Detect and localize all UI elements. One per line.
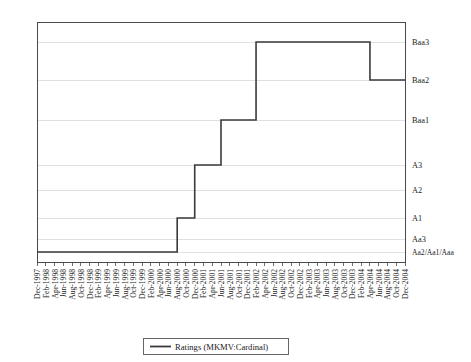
x-axis-labels-group: Dec-1997Feb-1998Apr-1998Jun-1998Aug-1998… [33,269,410,300]
x-label-Feb-2002: Feb-2002 [252,269,261,298]
x-label-Oct-2003: Oct-2003 [340,269,349,298]
x-label-Apr-1999: Apr-1999 [103,269,112,299]
x-label-Dec-2002: Dec-2002 [296,269,305,299]
y-label-Aa3: Aa3 [412,235,426,244]
x-label-Jun-2002: Jun-2002 [270,269,279,297]
x-label-Dec-1999: Dec-1999 [138,269,147,299]
x-label-Aug-2001: Aug-2001 [226,269,235,300]
x-label-Aug-2003: Aug-2003 [331,269,340,300]
x-label-Oct-1999: Oct-1999 [129,269,138,298]
y-label-Baa3: Baa3 [412,38,429,47]
x-label-Aug-2002: Aug-2002 [278,269,287,300]
x-label-Aug-1998: Aug-1998 [68,269,77,300]
chart-figure: Aa2/Aa1/AaaAa3A1A2A3Baa1Baa2Baa3 Dec-199… [0,0,471,362]
x-tickmarks-group [37,262,405,266]
x-label-Dec-2003: Dec-2003 [348,269,357,299]
x-label-Apr-2003: Apr-2003 [313,269,322,299]
x-label-Oct-2002: Oct-2002 [287,269,296,298]
x-label-Feb-2001: Feb-2001 [199,269,208,298]
x-label-Dec-1998: Dec-1998 [86,269,95,299]
x-label-Feb-2000: Feb-2000 [147,269,156,298]
y-label-A3: A3 [412,161,422,170]
x-label-Apr-2001: Apr-2001 [208,269,217,299]
y-label-A2: A2 [412,186,422,195]
x-label-Dec-2004: Dec-2004 [401,269,410,299]
x-label-Dec-2000: Dec-2000 [191,269,200,299]
x-label-Apr-2000: Apr-2000 [156,269,165,299]
x-label-Dec-2001: Dec-2001 [243,269,252,299]
x-label-Feb-1998: Feb-1998 [42,269,51,298]
x-label-Apr-2002: Apr-2002 [261,269,270,299]
x-label-Oct-2004: Oct-2004 [392,269,401,298]
y-axis-labels-group: Aa2/Aa1/AaaAa3A1A2A3Baa1Baa2Baa3 [412,38,454,257]
x-label-Dec-1997: Dec-1997 [33,269,42,299]
x-label-Jun-2001: Jun-2001 [217,269,226,297]
x-label-Oct-1998: Oct-1998 [77,269,86,298]
x-label-Aug-2004: Aug-2004 [383,269,392,300]
x-label-Jun-1998: Jun-1998 [59,269,68,297]
x-label-Oct-2000: Oct-2000 [182,269,191,298]
y-label-Baa2: Baa2 [412,76,429,85]
legend-label-ratings: Ratings (MKMV:Cardinal) [175,342,268,352]
y-label-Baa1: Baa1 [412,116,429,125]
x-label-Aug-2000: Aug-2000 [173,269,182,300]
x-label-Jun-2003: Jun-2003 [322,269,331,297]
x-label-Feb-1999: Feb-1999 [94,269,103,298]
chart-legend: Ratings (MKMV:Cardinal) [143,338,288,354]
x-label-Apr-1998: Apr-1998 [51,269,60,299]
x-label-Apr-2004: Apr-2004 [366,269,375,299]
x-label-Jun-2004: Jun-2004 [375,269,384,297]
x-label-Aug-1999: Aug-1999 [121,269,130,300]
y-label-A1: A1 [412,214,422,223]
rating-history-chart: Aa2/Aa1/AaaAa3A1A2A3Baa1Baa2Baa3 Dec-199… [0,0,471,362]
ratings-series-line [37,42,405,252]
x-label-Feb-2003: Feb-2003 [305,269,314,298]
x-label-Jun-1999: Jun-1999 [112,269,121,297]
x-label-Feb-2004: Feb-2004 [357,269,366,298]
y-label-Aa2-Aa1-Aaa: Aa2/Aa1/Aaa [412,248,454,257]
x-label-Jun-2000: Jun-2000 [164,269,173,297]
x-label-Oct-2001: Oct-2001 [235,269,244,298]
